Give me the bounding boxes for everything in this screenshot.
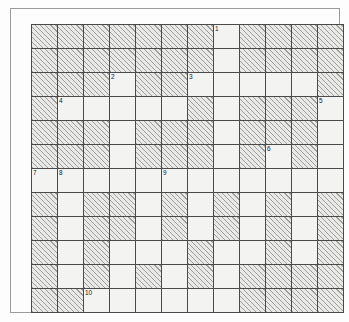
grid-cell-open[interactable] bbox=[136, 289, 162, 313]
grid-cell-blocked bbox=[266, 25, 292, 49]
grid-cell-blocked bbox=[214, 217, 240, 241]
grid-cell-blocked bbox=[240, 49, 266, 73]
grid-cell-open[interactable] bbox=[136, 217, 162, 241]
grid-cell-open[interactable] bbox=[292, 193, 318, 217]
grid-cell-blocked bbox=[32, 73, 58, 97]
grid-cell-open[interactable] bbox=[292, 241, 318, 265]
grid-cell-open[interactable] bbox=[214, 121, 240, 145]
grid-cell-blocked bbox=[32, 49, 58, 73]
grid-cell-open[interactable]: 2 bbox=[110, 73, 136, 97]
grid-cell-open[interactable] bbox=[318, 145, 344, 169]
clue-number: 8 bbox=[59, 169, 62, 176]
grid-cell-blocked bbox=[162, 25, 188, 49]
grid-cell-blocked bbox=[266, 289, 292, 313]
grid-cell-open[interactable] bbox=[188, 193, 214, 217]
grid-cell-open[interactable] bbox=[318, 121, 344, 145]
grid-cell-open[interactable] bbox=[110, 289, 136, 313]
grid-cell-open[interactable] bbox=[214, 289, 240, 313]
grid-cell-blocked bbox=[84, 121, 110, 145]
grid-cell-blocked bbox=[318, 265, 344, 289]
grid-cell-open[interactable] bbox=[214, 241, 240, 265]
grid-cell-open[interactable] bbox=[188, 217, 214, 241]
grid-cell-blocked bbox=[266, 265, 292, 289]
grid-cell-open[interactable] bbox=[110, 97, 136, 121]
grid-cell-blocked bbox=[292, 97, 318, 121]
grid-cell-blocked bbox=[58, 289, 84, 313]
grid-cell-open[interactable] bbox=[84, 97, 110, 121]
grid-cell-blocked bbox=[32, 121, 58, 145]
grid-cell-open[interactable] bbox=[214, 49, 240, 73]
grid-cell-blocked bbox=[188, 145, 214, 169]
grid-cell-open[interactable] bbox=[292, 217, 318, 241]
grid-cell-open[interactable] bbox=[84, 169, 110, 193]
grid-cell-open[interactable] bbox=[136, 241, 162, 265]
grid-cell-open[interactable] bbox=[266, 169, 292, 193]
grid-cell-open[interactable]: 9 bbox=[162, 169, 188, 193]
grid-cell-open[interactable] bbox=[292, 73, 318, 97]
grid-cell-blocked bbox=[136, 49, 162, 73]
grid-cell-open[interactable]: 1 bbox=[214, 25, 240, 49]
grid-cell-open[interactable]: 4 bbox=[58, 97, 84, 121]
grid-cell-open[interactable]: 6 bbox=[266, 145, 292, 169]
grid-cell-blocked bbox=[32, 25, 58, 49]
grid-cell-blocked bbox=[240, 265, 266, 289]
grid-cell-open[interactable] bbox=[110, 265, 136, 289]
grid-cell-open[interactable]: 5 bbox=[318, 97, 344, 121]
grid-cell-blocked bbox=[58, 121, 84, 145]
grid-cell-open[interactable] bbox=[214, 97, 240, 121]
grid-cell-open[interactable] bbox=[136, 97, 162, 121]
grid-cell-blocked bbox=[32, 97, 58, 121]
grid-cell-open[interactable] bbox=[214, 73, 240, 97]
grid-cell-blocked bbox=[188, 97, 214, 121]
grid-cell-open[interactable] bbox=[214, 169, 240, 193]
grid-cell-blocked bbox=[110, 193, 136, 217]
grid-cell-blocked bbox=[136, 73, 162, 97]
grid-cell-open[interactable] bbox=[58, 217, 84, 241]
grid-cell-open[interactable]: 8 bbox=[58, 169, 84, 193]
grid-cell-blocked bbox=[110, 217, 136, 241]
grid-cell-open[interactable] bbox=[266, 73, 292, 97]
grid-cell-open[interactable]: 3 bbox=[188, 73, 214, 97]
grid-cell-open[interactable] bbox=[162, 265, 188, 289]
grid-cell-open[interactable] bbox=[162, 97, 188, 121]
grid-cell-open[interactable] bbox=[214, 265, 240, 289]
grid-cell-blocked bbox=[266, 121, 292, 145]
grid-cell-open[interactable] bbox=[240, 193, 266, 217]
grid-cell-blocked bbox=[292, 145, 318, 169]
grid-cell-blocked bbox=[214, 193, 240, 217]
grid-cell-blocked bbox=[32, 193, 58, 217]
grid-cell-open[interactable] bbox=[110, 145, 136, 169]
crossword-grid[interactable]: 12345678910 bbox=[31, 24, 344, 313]
grid-cell-open[interactable]: 10 bbox=[84, 289, 110, 313]
grid-cell-blocked bbox=[58, 49, 84, 73]
grid-cell-blocked bbox=[32, 265, 58, 289]
grid-cell-blocked bbox=[318, 193, 344, 217]
grid-cell-open[interactable]: 7 bbox=[32, 169, 58, 193]
grid-cell-blocked bbox=[266, 193, 292, 217]
clue-number: 4 bbox=[59, 97, 62, 104]
grid-cell-open[interactable] bbox=[188, 289, 214, 313]
grid-cell-open[interactable] bbox=[136, 169, 162, 193]
grid-cell-open[interactable] bbox=[162, 241, 188, 265]
grid-cell-open[interactable] bbox=[240, 217, 266, 241]
grid-cell-open[interactable] bbox=[240, 169, 266, 193]
grid-cell-open[interactable] bbox=[292, 169, 318, 193]
grid-cell-open[interactable] bbox=[136, 193, 162, 217]
grid-cell-open[interactable] bbox=[240, 241, 266, 265]
grid-cell-blocked bbox=[58, 25, 84, 49]
grid-cell-open[interactable] bbox=[162, 289, 188, 313]
grid-cell-open[interactable] bbox=[58, 241, 84, 265]
grid-cell-open[interactable] bbox=[58, 265, 84, 289]
grid-cell-blocked bbox=[292, 25, 318, 49]
grid-cell-blocked bbox=[162, 121, 188, 145]
grid-cell-open[interactable] bbox=[110, 121, 136, 145]
grid-cell-open[interactable] bbox=[240, 73, 266, 97]
grid-cell-open[interactable] bbox=[110, 169, 136, 193]
grid-cell-open[interactable] bbox=[58, 193, 84, 217]
grid-cell-blocked bbox=[32, 241, 58, 265]
clue-number: 7 bbox=[33, 169, 36, 176]
grid-cell-open[interactable] bbox=[110, 241, 136, 265]
grid-cell-open[interactable] bbox=[188, 169, 214, 193]
grid-cell-open[interactable] bbox=[318, 169, 344, 193]
grid-cell-open[interactable] bbox=[214, 145, 240, 169]
